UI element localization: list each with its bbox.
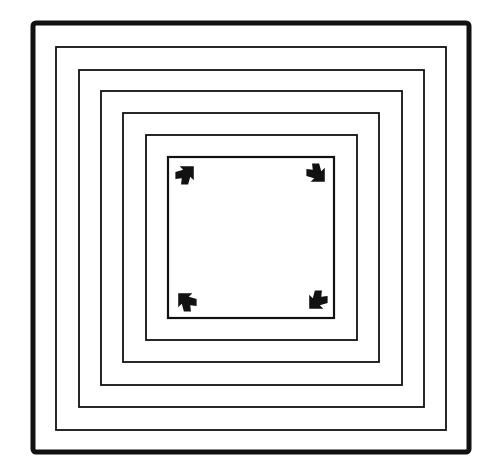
arrow-top-right-icon [302,159,332,189]
arrow-bottom-left-icon [171,286,201,316]
arrow-top-left-icon [171,159,201,189]
inner-square-6 [168,157,334,318]
arrow-bottom-right-icon [302,286,332,316]
outer-square [33,23,469,452]
arrows-group [171,159,332,316]
inner-square-4 [123,113,379,362]
concentric-squares-diagram [0,0,501,469]
figure-canvas [0,0,501,469]
inner-square-2 [79,70,424,407]
squares-group [33,23,469,452]
inner-square-1 [56,47,446,430]
inner-square-5 [146,135,357,340]
